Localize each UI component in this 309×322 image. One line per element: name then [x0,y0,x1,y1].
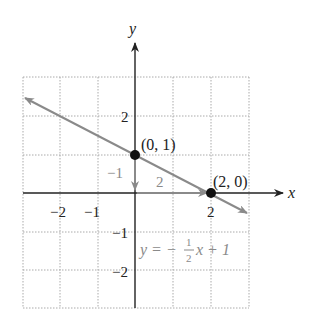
equation-den: 2 [186,252,192,264]
point-label: (2, 0) [213,173,248,191]
equation-lhs: y = − [138,241,177,259]
run-label: 2 [156,174,164,190]
x-tick-label: 2 [207,204,215,220]
x-tick-label: −2 [50,204,66,220]
y-axis-label: y [127,20,137,38]
line-series [25,98,135,155]
point-0-1 [130,150,140,160]
y-tick-label: −2 [112,264,128,280]
equation-rhs: x + 1 [195,241,230,258]
x-axis-label: x [287,184,295,201]
equation-num: 1 [186,236,192,248]
rise-label: −1 [107,165,123,181]
y-tick-label: −1 [112,225,128,241]
graph: y x −2 −1 2 2 −1 −2 (0, 1) (2, 0) −1 2 y… [0,0,309,322]
y-tick-label: 2 [121,109,129,125]
x-tick-label: −1 [84,204,100,220]
point-label: (0, 1) [141,136,176,154]
